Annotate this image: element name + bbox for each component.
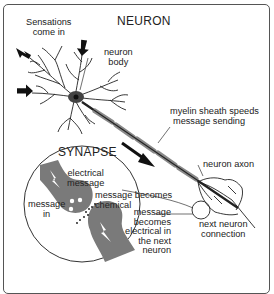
label-sensations: Sensationscome in bbox=[26, 18, 71, 37]
synapse-title: SYNAPSE bbox=[58, 145, 117, 159]
label-axon: neuron axon bbox=[203, 160, 254, 170]
label-electrical-message: electricalmessage bbox=[67, 169, 104, 188]
diagram-title: NEURON bbox=[117, 14, 171, 28]
label-message-in: messagein bbox=[28, 200, 65, 219]
input-arrow-icon bbox=[16, 39, 90, 97]
label-neuron-body: neuronbody bbox=[104, 48, 133, 67]
label-becomes-electrical: message becomes electrical in the next n… bbox=[123, 208, 171, 256]
label-next-connection: next neuronconnection bbox=[199, 220, 248, 239]
label-myelin: myelin sheath speedsmessage sending bbox=[170, 107, 259, 126]
